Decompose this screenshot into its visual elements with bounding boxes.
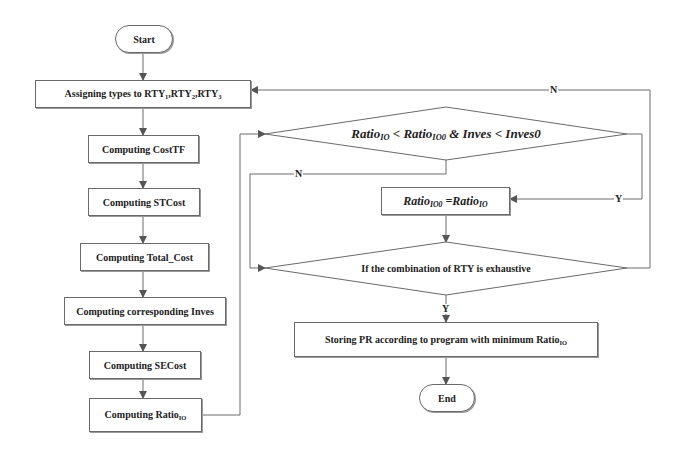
edge-label-y-decision2: Y [441,304,450,314]
start-terminal: Start [115,25,173,53]
storing-pr-box: Storing PR according to program with min… [294,322,598,357]
end-label: End [438,393,456,404]
computing-stcost-label: Computing STCost [103,197,186,208]
assign-types-box: Assigning types to RTY1,RTY2,RTY3 [35,80,251,108]
decision-exhaustive: If the combination of RTY is exhaustive [300,255,592,281]
edge-label-y-decision1: Y [614,194,623,204]
update-ratio-box: RatioIO0 =RatioIO [381,187,510,215]
decision-exhaustive-label: If the combination of RTY is exhaustive [361,263,530,274]
computing-total-cost-label: Computing Total_Cost [96,252,193,263]
computing-total-cost-box: Computing Total_Cost [80,243,209,271]
connector-lines [0,0,683,453]
decision-ratio-inves-label: RatioIO < RatioIO0 & Inves < Inves0 [351,126,541,142]
computing-costtf-box: Computing CostTF [88,135,199,163]
computing-stcost-box: Computing STCost [88,188,200,216]
computing-ratio-label: Computing RatioIO [105,409,187,421]
decision-ratio-inves: RatioIO < RatioIO0 & Inves < Inves0 [300,120,592,148]
computing-inves-box: Computing corresponding Inves [64,297,226,325]
storing-pr-label: Storing PR according to program with min… [325,334,567,346]
assign-types-label: Assigning types to RTY1,RTY2,RTY3 [65,88,222,100]
computing-costtf-label: Computing CostTF [102,144,185,155]
computing-inves-label: Computing corresponding Inves [76,306,214,317]
computing-secost-box: Computing SECost [89,351,201,379]
update-ratio-label: RatioIO0 =RatioIO [403,194,487,209]
computing-ratio-box: Computing RatioIO [89,398,202,432]
start-label: Start [133,34,155,45]
end-terminal: End [419,384,475,412]
edge-label-n-decision1: N [294,169,303,179]
computing-secost-label: Computing SECost [104,360,187,371]
edge-label-n-top: N [549,85,558,95]
